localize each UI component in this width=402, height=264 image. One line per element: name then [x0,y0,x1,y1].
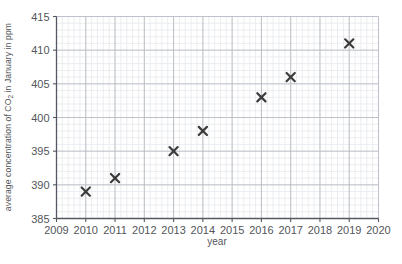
y-tick-label: 415 [31,11,49,23]
chart-container: 2009201020112012201320142015201620172018… [0,0,402,264]
y-tick-label: 405 [31,78,49,90]
x-tick-label: 2009 [44,224,68,236]
y-axis-title: average concentration of CO2 in January … [3,23,14,211]
x-axis-title: year [207,236,227,247]
x-tick-label: 2014 [191,224,215,236]
x-tick-label: 2017 [278,224,302,236]
x-tick-label: 2018 [308,224,332,236]
x-tick-label: 2020 [366,224,390,236]
x-tick-label: 2011 [103,224,127,236]
x-tick-label: 2015 [220,224,244,236]
y-tick-label: 390 [31,179,49,191]
y-tick-label: 395 [31,145,49,157]
x-tick-label: 2012 [132,224,156,236]
x-tick-label: 2010 [74,224,98,236]
scatter-plot: 2009201020112012201320142015201620172018… [0,0,402,264]
y-tick-label: 400 [31,112,49,124]
x-tick-label: 2019 [337,224,361,236]
x-tick-label: 2016 [249,224,273,236]
x-tick-label: 2013 [161,224,185,236]
y-tick-label: 410 [31,44,49,56]
y-tick-label: 385 [31,213,49,225]
